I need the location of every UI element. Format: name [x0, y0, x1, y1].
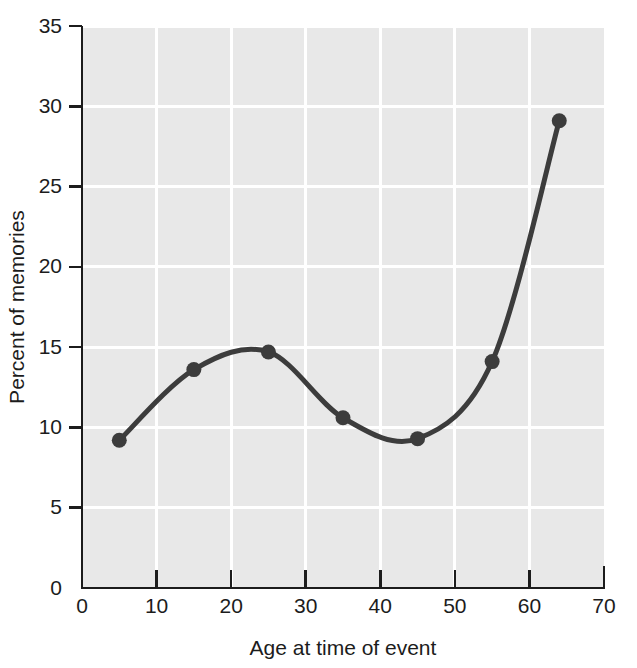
x-tick-label: 0: [76, 594, 88, 617]
y-tick-label: 15: [39, 335, 62, 358]
x-tick-label: 70: [592, 594, 615, 617]
y-axis-label: Percent of memories: [5, 210, 28, 404]
y-tick-label: 30: [39, 94, 62, 117]
chart-figure: 05101520253035 010203040506070 Age at ti…: [0, 0, 637, 668]
y-tick-label: 5: [50, 495, 62, 518]
x-tick-label: 60: [518, 594, 541, 617]
data-point-marker: [485, 354, 500, 369]
y-axis-tick-labels: 05101520253035: [39, 14, 62, 599]
data-point-marker: [336, 410, 351, 425]
y-tick-label: 10: [39, 415, 62, 438]
plot-area-background: [82, 26, 604, 588]
x-axis-label: Age at time of event: [250, 636, 437, 659]
data-point-marker: [186, 362, 201, 377]
y-tick-label: 35: [39, 14, 62, 37]
line-chart-svg: 05101520253035 010203040506070 Age at ti…: [0, 0, 637, 668]
x-tick-label: 20: [219, 594, 242, 617]
y-tick-label: 0: [50, 576, 62, 599]
y-tick-label: 25: [39, 174, 62, 197]
data-point-marker: [552, 113, 567, 128]
x-tick-label: 10: [145, 594, 168, 617]
x-tick-label: 40: [369, 594, 392, 617]
x-tick-label: 50: [443, 594, 466, 617]
data-point-marker: [410, 431, 425, 446]
data-point-marker: [261, 344, 276, 359]
x-tick-label: 30: [294, 594, 317, 617]
y-axis-ticks: [69, 26, 82, 508]
y-tick-label: 20: [39, 254, 62, 277]
data-point-marker: [112, 433, 127, 448]
x-axis-tick-labels: 010203040506070: [76, 594, 616, 617]
